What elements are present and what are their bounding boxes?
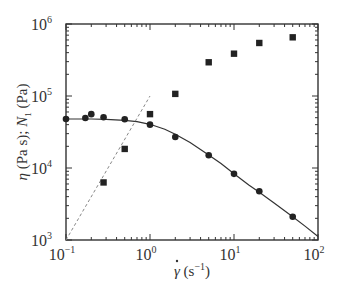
y-tick-label: 106 — [31, 14, 52, 33]
n1-data-point — [172, 91, 178, 97]
x-axis-label-text: γ (s−1) — [174, 261, 210, 280]
x-tick-label: 10−1 — [49, 244, 76, 263]
eta-data-point — [289, 214, 296, 221]
eta-data-point — [121, 116, 128, 123]
n1-data-point — [256, 40, 262, 46]
eta-data-point — [100, 114, 107, 121]
dot-accent — [176, 260, 178, 262]
n1-data-point — [122, 146, 128, 152]
eta-data-point — [147, 121, 154, 128]
eta-data-point — [63, 116, 70, 123]
n1-data-point — [231, 50, 237, 56]
eta-data-point — [256, 188, 263, 195]
chart: 10−1100101102103104105106 γ (s−1) η (Pa … — [0, 0, 339, 299]
x-tick-label: 101 — [220, 244, 241, 263]
x-axis-label: γ (s−1) — [174, 260, 210, 280]
y-tick-label: 104 — [31, 158, 52, 177]
eta-data-point — [88, 111, 95, 118]
n1-data-point — [147, 111, 153, 117]
y-tick-label: 105 — [31, 86, 52, 105]
reference-dashed-line — [66, 96, 150, 240]
series-markers — [63, 34, 296, 220]
n1-data-point — [206, 59, 212, 65]
x-tick-label: 100 — [136, 244, 157, 263]
n1-data-point — [100, 179, 106, 185]
eta-data-point — [82, 115, 89, 122]
fit-curve — [66, 119, 318, 237]
eta-data-point — [205, 152, 212, 159]
x-tick-label: 102 — [304, 244, 325, 263]
n1-data-point — [290, 34, 296, 40]
eta-data-point — [231, 171, 238, 178]
eta-data-point — [172, 134, 179, 141]
